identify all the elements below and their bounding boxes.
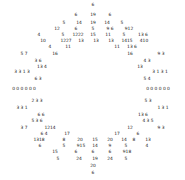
data-point-label: 3 3 1 xyxy=(16,106,27,110)
data-point-label: 6 xyxy=(75,150,78,154)
data-point-label: 6 xyxy=(137,132,140,136)
data-point-label: 8 xyxy=(133,138,136,142)
data-point-label: 5 4 xyxy=(144,77,151,81)
data-point-label: 915 xyxy=(77,144,85,148)
data-point-label: 1415 xyxy=(121,39,132,43)
data-point-label: 13 6 xyxy=(138,33,148,37)
data-point-label: 6 4 xyxy=(41,132,48,136)
data-point-label: 17 xyxy=(64,132,70,136)
data-point-label: 3 6 xyxy=(35,59,42,63)
data-point-label: 13 6 xyxy=(127,45,137,49)
data-point-label: 8 xyxy=(63,138,66,142)
data-point-label: 9 xyxy=(109,144,112,148)
data-point-label: 13 xyxy=(137,65,143,69)
data-point-label: 5 xyxy=(125,144,128,148)
data-point-label: 12 xyxy=(127,126,133,130)
data-point-label: 6 xyxy=(109,13,112,17)
data-point-label: 5 xyxy=(63,21,66,25)
data-point-label: 5 xyxy=(123,33,126,37)
data-point-label: 5 xyxy=(57,157,60,161)
data-point-label: 13 xyxy=(108,39,114,43)
data-point-label: 5 xyxy=(121,21,124,25)
data-point-label: 13 4 xyxy=(37,65,47,69)
data-point-label: 4 xyxy=(146,144,149,148)
data-point-label: 0 0 0 0 0 0 xyxy=(12,87,36,91)
data-point-label: 6 xyxy=(109,150,112,154)
data-point-label: 4 3 xyxy=(144,59,151,63)
data-point-label: 2 3 3 xyxy=(31,99,42,103)
data-point-label: 1227 xyxy=(60,39,71,43)
data-point-label: 3 1 3 1 xyxy=(152,70,167,74)
data-point-label: 14 xyxy=(121,138,127,142)
data-point-label: 6 xyxy=(39,144,42,148)
data-point-label: 13 xyxy=(78,39,84,43)
scatter-plot-canvas: 661965141914512659 69124512221511513 610… xyxy=(0,0,185,180)
data-point-label: 1318 xyxy=(33,138,44,142)
data-point-label: 1222 xyxy=(72,33,83,37)
data-point-label: 16 xyxy=(127,52,133,56)
data-point-label: 15 xyxy=(90,33,96,37)
data-point-label: 4 3 5 xyxy=(142,119,153,123)
data-point-label: 9 3 xyxy=(158,126,165,130)
data-point-label: 15 xyxy=(92,138,98,142)
data-point-label: 6 xyxy=(92,150,95,154)
data-point-label: 5 7 xyxy=(21,52,28,56)
data-point-label: 3 3 1 3 xyxy=(14,70,29,74)
data-point-label: 19 xyxy=(90,13,96,17)
data-point-label: 17 xyxy=(114,132,120,136)
data-point-label: 1 3 1 xyxy=(157,106,168,110)
data-point-label: 14 xyxy=(104,21,110,25)
data-point-label: 20 xyxy=(77,138,83,142)
data-point-label: 6 xyxy=(92,3,95,7)
data-point-label: 9 3 xyxy=(158,52,165,56)
data-point-label: 11 xyxy=(114,45,120,49)
data-point-label: 4 xyxy=(38,33,41,37)
data-point-label: 5 xyxy=(92,27,95,31)
data-point-label: 1214 xyxy=(44,126,55,130)
data-point-label: 12 xyxy=(54,27,60,31)
data-point-label: 918 xyxy=(123,150,131,154)
data-point-label: 5 3 6 xyxy=(31,119,42,123)
data-point-label: 24 xyxy=(107,157,113,161)
data-point-label: 6 xyxy=(75,13,78,17)
data-point-label: 13 xyxy=(93,39,99,43)
data-point-label: 0 0 0 0 0 0 xyxy=(146,87,170,91)
data-point-label: 6 xyxy=(92,171,95,175)
data-point-label: 15 xyxy=(52,150,58,154)
data-point-label: 5 xyxy=(63,144,66,148)
data-point-label: 13 xyxy=(145,138,151,142)
data-point-label: 14 xyxy=(76,21,82,25)
data-point-label: 16 xyxy=(52,52,58,56)
data-point-label: 912 xyxy=(125,27,133,31)
data-point-label: 6 6 xyxy=(38,113,45,117)
data-point-label: 6 xyxy=(75,27,78,31)
data-point-label: 24 xyxy=(76,157,82,161)
data-point-label: 13 6 xyxy=(138,113,148,117)
data-point-label: 20 xyxy=(107,138,113,142)
data-point-label: 11 xyxy=(105,33,111,37)
data-point-label: 19 xyxy=(90,21,96,25)
data-point-label: 10 xyxy=(40,39,46,43)
data-point-label: 14 xyxy=(92,144,98,148)
data-point-label: 4 xyxy=(49,45,52,49)
data-point-label: 3 7 xyxy=(21,126,28,130)
data-point-label: 9 6 xyxy=(107,27,114,31)
data-point-label: 5 xyxy=(125,157,128,161)
data-point-label: 11 xyxy=(65,45,71,49)
data-point-label: 410 xyxy=(140,39,148,43)
data-point-label: 6 3 xyxy=(35,77,42,81)
data-point-label: 20 xyxy=(90,164,96,168)
data-point-label: 5 3 xyxy=(145,99,152,103)
data-point-label: 5 xyxy=(62,33,65,37)
data-point-label: 19 xyxy=(92,157,98,161)
